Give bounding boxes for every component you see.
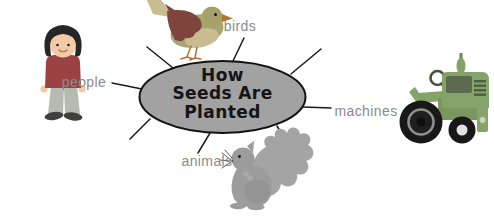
spoke-people (112, 83, 142, 89)
branch-label-machines: machines (333, 104, 399, 119)
center-topic: How Seeds Are Planted (139, 61, 306, 133)
center-topic-line1: How (201, 66, 244, 85)
spoke-animals (198, 133, 210, 153)
squirrel-haunch (244, 179, 270, 203)
girl-eye (67, 44, 70, 47)
tractor-rear-hub (417, 118, 426, 127)
girl-pants (48, 86, 80, 114)
tractor-front-light (480, 117, 486, 123)
spoke-machines (303, 107, 331, 108)
tractor-engine-panel (446, 76, 472, 93)
bird-legs (181, 46, 201, 60)
tractor-illustration (400, 53, 490, 144)
center-topic-line3: Planted (184, 103, 261, 122)
branch-label-birds: birds (215, 19, 265, 34)
branch-label-people: people (58, 75, 110, 90)
branch-label-animals: animals (180, 154, 234, 169)
squirrel-eye (238, 155, 241, 158)
tractor-front-hub (457, 125, 468, 136)
bird-eye (214, 13, 217, 16)
squirrel-head (232, 148, 255, 171)
concept-map: How Seeds Are Planted people birds machi… (0, 0, 494, 221)
spoke-birds (233, 38, 244, 61)
center-topic-line2: Seeds Are (172, 84, 272, 103)
squirrel-paw (247, 175, 253, 181)
squirrel-illustration (220, 127, 313, 210)
girl-eye (56, 44, 59, 47)
